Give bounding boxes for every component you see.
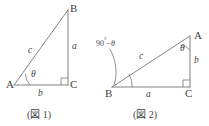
figure-2-right-angle-mark <box>183 80 190 87</box>
figure-1-caption: (図 1) <box>27 106 51 121</box>
figure-1-right-angle-mark <box>61 78 68 85</box>
figure-1-vertex-label-B: B <box>70 3 77 14</box>
figure-2-side-c-line <box>112 36 190 87</box>
figure-2-vertex-label-A: A <box>194 30 202 41</box>
figure-1-side-c-line <box>14 10 68 85</box>
geometry-figure-board: A B C a b c θ A B C a b c θ 90°−θ (図 1) … <box>0 0 209 126</box>
figure-2-complement-angle-label: 90°−θ <box>96 37 115 48</box>
figure-2-side-label-a: a <box>146 90 151 100</box>
figure-1-triangle <box>14 10 68 85</box>
figure-1-side-label-a: a <box>72 42 77 52</box>
figure-2-triangle <box>112 36 190 87</box>
figure-1-side-label-b: b <box>38 89 43 99</box>
figure-1-angle-label-theta: θ <box>31 70 36 80</box>
figure-1-side-label-c: c <box>28 46 32 56</box>
figure-2-angle-label-theta: θ <box>180 44 185 54</box>
figure-2-vertex-label-C: C <box>185 88 192 99</box>
figure-1-vertex-label-A: A <box>6 79 14 90</box>
figure-2-caption: (図 2) <box>133 106 157 121</box>
figure-2-side-label-b: b <box>194 56 199 66</box>
figure-2-side-label-c: c <box>139 52 143 62</box>
figure-1-vertex-label-C: C <box>70 79 77 90</box>
figure-2-complement-angle-leader <box>110 49 116 85</box>
figure-2-vertex-label-B: B <box>105 88 112 99</box>
complement-angle-theta: θ <box>111 39 115 48</box>
complement-angle-degrees: 90 <box>96 39 104 48</box>
figure-1-angle-theta-arc <box>25 74 30 85</box>
